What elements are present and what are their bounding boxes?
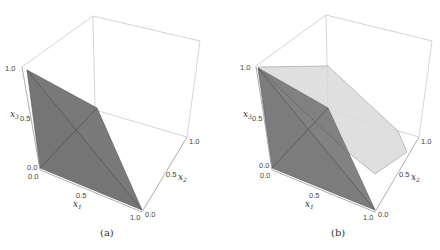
x2-axis-label: x2 [411, 172, 420, 183]
x2-tick-0: 0.0 [378, 210, 388, 219]
x2-tick-1: 1.0 [421, 137, 431, 146]
caption-a: (a) [100, 227, 114, 238]
x2-tick-05: 0.5 [399, 170, 409, 179]
x1-tick-0: 0.0 [260, 171, 270, 180]
x2-axis-label: x2 [178, 172, 187, 183]
panel-a: 1.0 0.5 0.0 0.0 0.5 1.0 0.0 0.5 1.0 x3 x… [5, 16, 200, 238]
x1-tick-0: 0.0 [28, 172, 38, 181]
box-top-back-edges [22, 16, 200, 67]
x3-axis-label: x3 [243, 109, 252, 120]
box-right-vertical [419, 41, 432, 137]
x3-tick-0: 0.0 [27, 163, 37, 172]
x3-tick-1: 1.0 [5, 64, 15, 73]
box-back-vertical [93, 16, 95, 110]
x3-tick-1: 1.0 [240, 63, 250, 72]
box-top-back-edges [256, 15, 432, 66]
box-right-vertical [187, 41, 200, 137]
x3-tick-05: 0.5 [20, 114, 30, 123]
figure: 1.0 0.5 0.0 0.0 0.5 1.0 0.0 0.5 1.0 x3 x… [0, 0, 440, 250]
x1-tick-1: 1.0 [363, 213, 373, 222]
x2-tick-0: 0.0 [145, 210, 155, 219]
caption-b: (b) [331, 227, 345, 238]
box-back-bottom-right [95, 110, 187, 137]
x2-tick-05: 0.5 [166, 170, 176, 179]
x2-tick-1: 1.0 [189, 137, 199, 146]
x1-tick-1: 1.0 [130, 213, 140, 222]
panel-b: 1.0 0.5 0.0 0.0 0.5 1.0 0.0 0.5 1.0 x3 x… [240, 15, 432, 238]
x3-axis-label: x3 [10, 109, 19, 120]
x3-tick-0: 0.0 [259, 161, 269, 170]
x3-tick-05: 0.5 [252, 114, 262, 123]
x1-axis-label: x1 [305, 199, 314, 210]
x1-axis-label: x1 [73, 199, 82, 210]
x1-tick-05: 0.5 [309, 191, 319, 200]
